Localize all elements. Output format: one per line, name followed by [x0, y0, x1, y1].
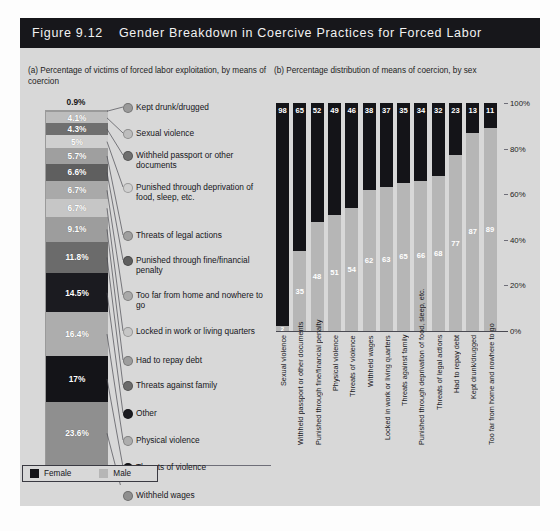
legend-swatch-male-icon: [99, 469, 108, 478]
panel-b-bar-segment-female: 49: [328, 103, 341, 215]
panel-a-category-label: Threats of legal actions: [136, 230, 266, 240]
panel-b-y-tick-label: 60%: [510, 190, 526, 199]
panel-a-category-dot-icon: [123, 409, 133, 419]
panel-b-bar-column: 6238: [363, 103, 376, 331]
panel-b-bar-segment-female: 46: [345, 103, 358, 208]
panel-b-bar-segment-female: 52: [311, 103, 324, 222]
panel-b-bar-segment-female: 32: [432, 103, 445, 176]
panel-b-bar-segment-male: 35: [293, 251, 306, 331]
panel-b-x-label: Sexual violence: [279, 335, 288, 445]
panel-b-bar-segment-female: 11: [484, 103, 497, 128]
panel-b-bar-segment-female: 34: [414, 103, 427, 181]
legend-swatch-female-icon: [30, 469, 39, 478]
panel-b-bar-segment-female: 13: [466, 103, 479, 133]
panel-a-category-label: Locked in work or living quarters: [136, 326, 266, 336]
panel-a-category-dot-icon: [123, 381, 133, 391]
panel-b-bar-column: 8911: [484, 103, 497, 331]
panel-a-category-label: Punished through deprivation of food, sl…: [136, 182, 266, 202]
panel-b-x-label: Threats of legal actions: [435, 335, 444, 445]
panel-b-y-tick-label: 40%: [510, 235, 526, 244]
panel-b-bar-segment-male: 62: [363, 190, 376, 331]
panel-b-y-tick-label: 80%: [510, 144, 526, 153]
legend-item-male: Male: [99, 469, 131, 478]
panel-b-bar-column: 298: [276, 103, 289, 331]
panel-b-bar-segment-male: 89: [484, 128, 497, 331]
panel-b-y-tick-label: 100%: [510, 99, 530, 108]
panel-b-bar-column: 7723: [449, 103, 462, 331]
panel-b-bar-segment-male: 68: [432, 176, 445, 331]
panel-b-bar-segment-male: 48: [311, 222, 324, 331]
panel-a-category-dot-icon: [123, 103, 133, 113]
panel-b-bar-segment-male: 65: [397, 183, 410, 331]
panel-a-category-label: Physical violence: [136, 435, 266, 445]
panel-b-x-label: Punished through fine/financial penalty: [314, 335, 323, 445]
panel-b-y-tick-label: 20%: [510, 281, 526, 290]
panel-b-chart: 2983565485251495446623863376535663468327…: [276, 95, 534, 485]
panel-a-header: (a) Percentage of victims of forced labo…: [28, 66, 278, 87]
panel-b-bar-segment-male: 77: [449, 155, 462, 331]
panel-b-bar-segment-male: 63: [380, 187, 393, 331]
panel-a-category-label: Punished through fine/financial penalty: [136, 255, 266, 275]
panel-a-category-label: Had to repay debt: [136, 355, 266, 365]
panel-a-chart: 0.9% 4.1%4.3%5%5.7%6.6%6.7%6.7%9.1%11.8%…: [24, 95, 274, 485]
panel-b-bar-column: 8713: [466, 103, 479, 331]
panel-a-category-dot-icon: [123, 356, 133, 366]
panel-a-category-label: Withheld passport or other documents: [136, 150, 266, 170]
panel-a-category-label: Other: [136, 408, 266, 418]
panel-b-plot-area: 2983565485251495446623863376535663468327…: [276, 103, 504, 331]
panel-b-bar-column: 5446: [345, 103, 358, 331]
panel-b-bar-column: 6337: [380, 103, 393, 331]
panel-a-category-label: Sexual violence: [136, 128, 266, 138]
panel-a-category-label: Too far from home and nowhere to go: [136, 290, 266, 310]
panel-b-y-tick-mark: [504, 149, 508, 150]
panel-a-category-dot-icon: [123, 129, 133, 139]
panel-b-bar-segment-female: 23: [449, 103, 462, 155]
legend-label-female: Female: [44, 469, 71, 478]
panel-b-header: (b) Percentage distribution of means of …: [274, 66, 544, 77]
panel-a-category-label: Withheld wages: [136, 490, 266, 500]
panel-b-bar-segment-male: 87: [466, 133, 479, 331]
panel-b-x-label: Threats of violence: [348, 335, 357, 445]
panel-b-bar-column: 4852: [311, 103, 324, 331]
legend-item-female: Female: [30, 469, 71, 478]
panel-b-y-tick-mark: [504, 103, 508, 104]
panel-b-bar-column: 3565: [293, 103, 306, 331]
panel-a-category-dot-icon: [123, 291, 133, 301]
panel-b-y-axis: 0%20%40%60%80%100%: [504, 103, 534, 331]
panel-b-bar-segment-female: 38: [363, 103, 376, 190]
legend-label-male: Male: [113, 469, 131, 478]
panel-a-category-dot-icon: [123, 231, 133, 241]
panel-b-bar-segment-female: 65: [293, 103, 306, 251]
panel-b-x-label: Too far from home and nowhere to go: [487, 335, 496, 445]
panel-b-x-label: Punished through deprivation of food, sl…: [417, 335, 426, 445]
panel-b-bar-segment-female: 98: [276, 103, 289, 326]
panel-b-y-tick-label: 0%: [510, 327, 521, 336]
panel-b-bar-column: 5149: [328, 103, 341, 331]
panel-b-x-label: Withheld passport or other documents: [296, 335, 305, 445]
figure-title: Gender Breakdown in Coercive Practices f…: [119, 26, 482, 40]
panel-b-bar-segment-female: 37: [380, 103, 393, 187]
panel-a-category-label: Kept drunk/drugged: [136, 102, 266, 112]
panel-b-x-label: Physical violence: [331, 335, 340, 445]
panel-b-bar-segment-male: 54: [345, 208, 358, 331]
panel-b-x-label: Kept drunk/drugged: [469, 335, 478, 445]
panel-b-bar-column: 6832: [432, 103, 445, 331]
figure-root: Figure 9.12 Gender Breakdown in Coercive…: [0, 0, 560, 531]
panel-b-y-tick-mark: [504, 240, 508, 241]
legend: Female Male: [22, 465, 158, 482]
panel-b-x-label: Withheld wages: [366, 335, 375, 445]
panel-b-x-label: Locked in work or living quarters: [383, 335, 392, 445]
panel-a-category-dot-icon: [123, 491, 133, 501]
panel-a-category-dot-icon: [123, 151, 133, 161]
panel-b-y-tick-mark: [504, 285, 508, 286]
figure-number: Figure 9.12: [32, 26, 103, 40]
panel-a-category-label: Threats against family: [136, 380, 266, 390]
panel-b-x-label: Threats against family: [400, 335, 409, 445]
panel-b-x-axis-line: [276, 331, 508, 332]
panel-b-bar-segment-female: 35: [397, 103, 410, 183]
panel-b-bar-segment-male: 51: [328, 215, 341, 331]
panel-a-category-dot-icon: [123, 256, 133, 266]
panel-a-category-dot-icon: [123, 183, 133, 193]
panel-b-x-label: Had to repay debt: [452, 335, 461, 445]
panel-b-bar-column: 6535: [397, 103, 410, 331]
